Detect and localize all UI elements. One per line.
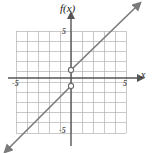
tick-label-x-positive: 5 [123, 80, 127, 88]
open-circle-lower [68, 83, 73, 88]
graph-canvas [0, 0, 154, 153]
tick-label-y-positive: 5 [62, 28, 66, 36]
open-circle-upper [68, 67, 73, 72]
y-axis-label: f(x) [60, 3, 75, 14]
tick-label-x-negative: -5 [12, 80, 19, 88]
function-branch-left [9, 86, 71, 148]
tick-label-y-negative: -5 [59, 127, 66, 135]
x-axis-label: x [141, 70, 145, 80]
function-graph-figure: f(x) x 5 -5 5 -5 [0, 0, 154, 153]
